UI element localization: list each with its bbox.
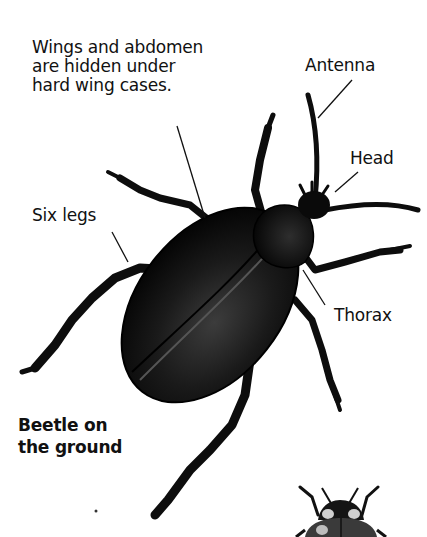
label-six-legs: Six legs — [32, 206, 96, 225]
label-thorax: Thorax — [334, 306, 392, 325]
leader-line-antenna — [318, 80, 352, 118]
ladybird-inset — [296, 487, 386, 537]
beetle-diagram: Wings and abdomen are hidden under hard … — [0, 0, 427, 537]
leader-line-thorax — [303, 270, 325, 305]
leader-line-head — [335, 172, 358, 192]
label-wings-and-abdomen: Wings and abdomen are hidden under hard … — [32, 38, 203, 95]
label-antenna: Antenna — [305, 56, 375, 75]
speck — [95, 510, 98, 513]
caption-beetle-on-ground: Beetle on the ground — [18, 414, 122, 458]
leader-line-legs — [112, 232, 128, 262]
label-head: Head — [350, 149, 394, 168]
